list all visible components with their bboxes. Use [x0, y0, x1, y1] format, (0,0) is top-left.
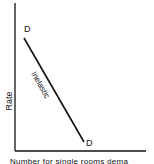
x-axis-label: Number for single rooms dema	[10, 157, 128, 164]
end-point-label: D	[86, 138, 93, 148]
start-point-label: D	[24, 24, 31, 34]
y-axis-label: Rate	[4, 86, 14, 116]
demand-curve	[24, 38, 84, 142]
